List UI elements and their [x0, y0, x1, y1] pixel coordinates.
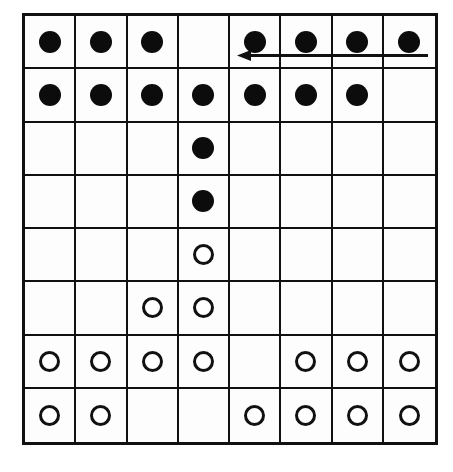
board-cell-r3-c6[interactable] — [333, 176, 384, 229]
board-cell-r7-c4[interactable] — [230, 389, 281, 442]
board-cell-r4-c0[interactable] — [25, 229, 76, 282]
white-piece-icon[interactable] — [39, 405, 60, 426]
board-cell-r2-c1[interactable] — [76, 123, 127, 176]
white-piece-icon[interactable] — [39, 351, 60, 372]
black-piece-icon[interactable] — [39, 31, 61, 53]
black-piece-icon[interactable] — [398, 31, 420, 53]
black-piece-icon[interactable] — [39, 84, 61, 106]
black-piece-icon[interactable] — [244, 84, 266, 106]
white-piece-icon[interactable] — [347, 351, 368, 372]
black-piece-icon[interactable] — [244, 31, 266, 53]
board-cell-r5-c5[interactable] — [281, 282, 332, 335]
white-piece-icon[interactable] — [399, 351, 420, 372]
board-cell-r6-c0[interactable] — [25, 336, 76, 389]
board-cell-r3-c3[interactable] — [179, 176, 230, 229]
board-cell-r5-c0[interactable] — [25, 282, 76, 335]
board-cell-r3-c0[interactable] — [25, 176, 76, 229]
board-cell-r4-c2[interactable] — [128, 229, 179, 282]
board-cell-r3-c2[interactable] — [128, 176, 179, 229]
board-cell-r1-c0[interactable] — [25, 69, 76, 122]
board-cell-r1-c2[interactable] — [128, 69, 179, 122]
white-piece-icon[interactable] — [347, 405, 368, 426]
board-cell-r3-c1[interactable] — [76, 176, 127, 229]
board-cell-r4-c3[interactable] — [179, 229, 230, 282]
white-piece-icon[interactable] — [193, 244, 214, 265]
board-cell-r0-c2[interactable] — [128, 16, 179, 69]
board-cell-r7-c2[interactable] — [128, 389, 179, 442]
board-cell-r6-c6[interactable] — [333, 336, 384, 389]
board-cell-r1-c3[interactable] — [179, 69, 230, 122]
board-cell-r0-c0[interactable] — [25, 16, 76, 69]
board-cell-r6-c1[interactable] — [76, 336, 127, 389]
white-piece-icon[interactable] — [193, 351, 214, 372]
board-cell-r1-c1[interactable] — [76, 69, 127, 122]
board-cell-r5-c2[interactable] — [128, 282, 179, 335]
black-piece-icon[interactable] — [141, 31, 163, 53]
board-cell-r2-c2[interactable] — [128, 123, 179, 176]
white-piece-icon[interactable] — [193, 297, 214, 318]
board-cell-r2-c4[interactable] — [230, 123, 281, 176]
board-cell-r0-c4[interactable] — [230, 16, 281, 69]
board-cell-r7-c6[interactable] — [333, 389, 384, 442]
game-board — [22, 13, 438, 445]
board-cell-r2-c5[interactable] — [281, 123, 332, 176]
board-cell-r6-c2[interactable] — [128, 336, 179, 389]
board-cell-r0-c6[interactable] — [333, 16, 384, 69]
board-cell-r2-c0[interactable] — [25, 123, 76, 176]
black-piece-icon[interactable] — [346, 31, 368, 53]
board-cell-r7-c5[interactable] — [281, 389, 332, 442]
board-cell-r2-c6[interactable] — [333, 123, 384, 176]
board-cell-r3-c4[interactable] — [230, 176, 281, 229]
board-cell-r0-c3[interactable] — [179, 16, 230, 69]
board-cell-r2-c7[interactable] — [384, 123, 435, 176]
board-cell-r0-c1[interactable] — [76, 16, 127, 69]
board-cell-r7-c7[interactable] — [384, 389, 435, 442]
black-piece-icon[interactable] — [192, 137, 214, 159]
board-cell-r6-c7[interactable] — [384, 336, 435, 389]
board-cell-r6-c3[interactable] — [179, 336, 230, 389]
board-cell-r4-c4[interactable] — [230, 229, 281, 282]
white-piece-icon[interactable] — [142, 297, 163, 318]
board-cell-r1-c4[interactable] — [230, 69, 281, 122]
board-cell-r4-c1[interactable] — [76, 229, 127, 282]
board-cell-r6-c4[interactable] — [230, 336, 281, 389]
white-piece-icon[interactable] — [295, 405, 316, 426]
board-cell-r4-c5[interactable] — [281, 229, 332, 282]
white-piece-icon[interactable] — [142, 351, 163, 372]
white-piece-icon[interactable] — [295, 351, 316, 372]
board-cell-r7-c1[interactable] — [76, 389, 127, 442]
white-piece-icon[interactable] — [244, 405, 265, 426]
white-piece-icon[interactable] — [399, 405, 420, 426]
board-cell-r7-c3[interactable] — [179, 389, 230, 442]
board-cell-r3-c7[interactable] — [384, 176, 435, 229]
board-cell-r7-c0[interactable] — [25, 389, 76, 442]
black-piece-icon[interactable] — [90, 31, 112, 53]
board-cell-r5-c4[interactable] — [230, 282, 281, 335]
board-cell-r0-c5[interactable] — [281, 16, 332, 69]
black-piece-icon[interactable] — [141, 84, 163, 106]
board-cell-r1-c7[interactable] — [384, 69, 435, 122]
board-cell-r0-c7[interactable] — [384, 16, 435, 69]
board-cell-r4-c6[interactable] — [333, 229, 384, 282]
board-cell-r1-c5[interactable] — [281, 69, 332, 122]
board-cell-r1-c6[interactable] — [333, 69, 384, 122]
white-piece-icon[interactable] — [90, 351, 111, 372]
board-cell-r2-c3[interactable] — [179, 123, 230, 176]
board-cell-r4-c7[interactable] — [384, 229, 435, 282]
black-piece-icon[interactable] — [295, 84, 317, 106]
black-piece-icon[interactable] — [295, 31, 317, 53]
board-cell-r6-c5[interactable] — [281, 336, 332, 389]
board-cell-r3-c5[interactable] — [281, 176, 332, 229]
board-cell-r5-c3[interactable] — [179, 282, 230, 335]
black-piece-icon[interactable] — [192, 190, 214, 212]
board-cell-r5-c7[interactable] — [384, 282, 435, 335]
white-piece-icon[interactable] — [90, 405, 111, 426]
black-piece-icon[interactable] — [346, 84, 368, 106]
board-cell-r5-c1[interactable] — [76, 282, 127, 335]
black-piece-icon[interactable] — [192, 84, 214, 106]
board-cell-r5-c6[interactable] — [333, 282, 384, 335]
black-piece-icon[interactable] — [90, 84, 112, 106]
